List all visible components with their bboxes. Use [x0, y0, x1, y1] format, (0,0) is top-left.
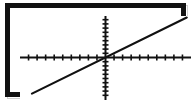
graph-screenshot — [0, 0, 191, 103]
plot-area[interactable] — [20, 16, 191, 100]
plotted-line-y-equals-x — [32, 18, 187, 94]
coordinate-plane-svg — [20, 16, 191, 100]
calculator-screen-frame — [5, 3, 186, 97]
plotted-series-group — [32, 18, 187, 94]
